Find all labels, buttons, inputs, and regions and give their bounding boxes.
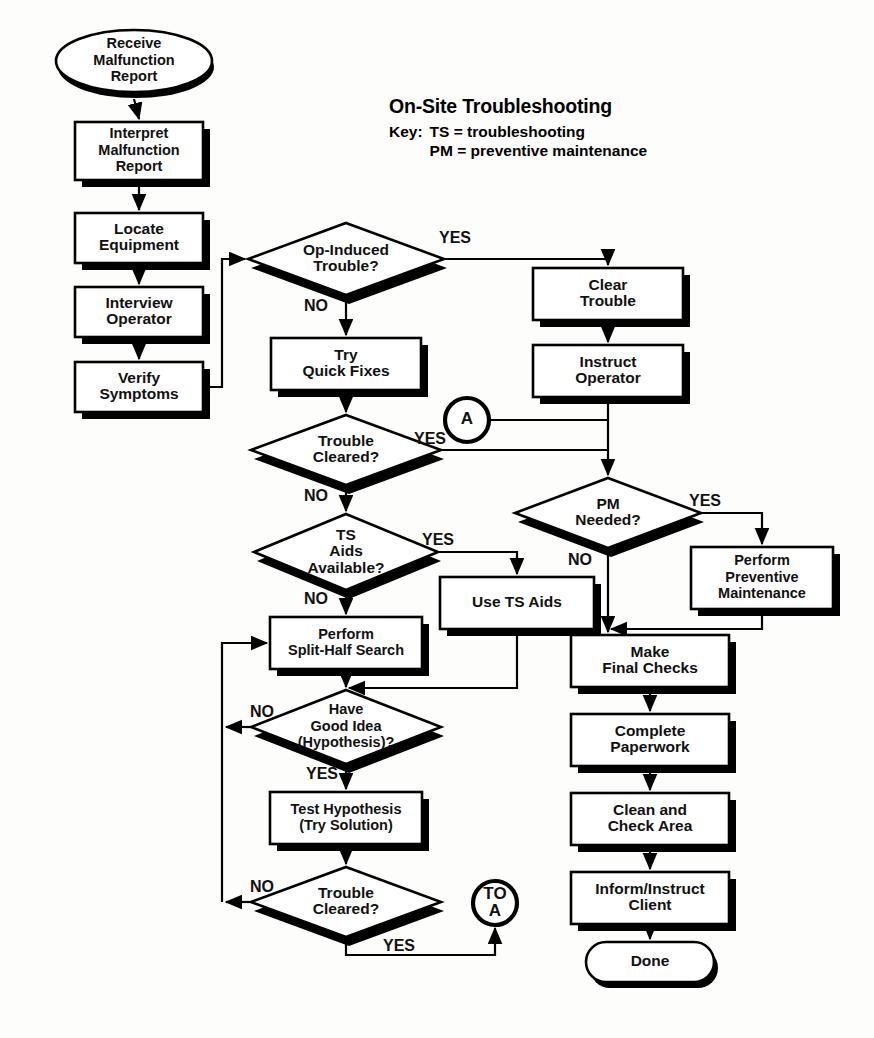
node-label: TS <box>336 526 356 543</box>
node-interview[interactable]: InterviewOperator <box>75 287 210 344</box>
node-label: Trouble <box>318 432 374 449</box>
node-label: Aids <box>329 542 363 559</box>
edge-loopback-splithalf <box>222 643 267 902</box>
page-title: On-Site Troubleshooting <box>389 95 647 118</box>
node-label: Clear <box>589 276 628 293</box>
node-start[interactable]: ReceiveMalfunctionReport <box>56 30 214 98</box>
node-label: Make <box>631 643 670 660</box>
edge-label: NO <box>250 703 274 720</box>
node-label: Done <box>631 952 670 969</box>
node-label: Complete <box>615 722 686 739</box>
node-label: Report <box>111 68 158 84</box>
node-cleared1[interactable]: TroubleCleared? <box>251 415 444 494</box>
node-label: Instruct <box>580 353 637 370</box>
node-label: Receive <box>107 35 162 51</box>
node-label: Available? <box>308 559 385 576</box>
node-label: Interpret <box>110 125 169 141</box>
node-cleared2[interactable]: TroubleCleared? <box>251 867 444 946</box>
node-locate[interactable]: LocateEquipment <box>75 213 210 270</box>
edge-performpm-finalchecks <box>611 616 762 629</box>
edge-label: YES <box>689 492 721 509</box>
node-label: Malfunction <box>93 52 174 68</box>
node-label: Perform <box>318 626 374 642</box>
edge-start-interpret <box>134 99 139 119</box>
node-label: Clean and <box>613 801 687 818</box>
node-label: A <box>489 901 501 920</box>
node-tsaidsq[interactable]: TSAidsAvailable? <box>254 514 441 599</box>
node-opinduced[interactable]: Op-InducedTrouble? <box>248 223 447 304</box>
node-label: (Hypothesis)? <box>298 734 395 750</box>
node-label: Trouble <box>580 292 636 309</box>
edge-label: NO <box>304 590 328 607</box>
node-label: Malfunction <box>98 142 179 158</box>
node-cleanarea[interactable]: Clean andCheck Area <box>571 793 736 852</box>
node-label: Preventive <box>725 569 798 585</box>
node-label: Needed? <box>575 511 640 528</box>
node-connTOA[interactable]: TOA <box>473 881 517 925</box>
node-label: Operator <box>575 369 640 386</box>
node-done[interactable]: Done <box>586 942 718 988</box>
flowchart-canvas: ReceiveMalfunctionReportInterpretMalfunc… <box>0 0 874 1038</box>
node-label: Equipment <box>99 236 179 253</box>
node-label: Interview <box>105 294 173 311</box>
key-line-ts: TS = troubleshooting <box>430 123 648 141</box>
node-verify[interactable]: VerifySymptoms <box>75 362 210 419</box>
edge-label: YES <box>414 430 446 447</box>
node-informclient[interactable]: Inform/InstructClient <box>571 872 736 931</box>
node-label: Symptoms <box>99 385 178 402</box>
node-label: Cleared? <box>313 448 379 465</box>
node-label: Good Idea <box>311 718 383 734</box>
node-quickfixes[interactable]: TryQuick Fixes <box>271 338 428 397</box>
edge-tsaids-usetsaids <box>438 552 517 574</box>
node-label: Locate <box>114 220 164 237</box>
key-label: Key: <box>389 123 423 160</box>
node-cleartrb[interactable]: ClearTrouble <box>533 268 690 327</box>
node-label: Test Hypothesis <box>291 801 402 817</box>
node-connA[interactable]: A <box>445 398 489 442</box>
edge-label: NO <box>304 297 328 314</box>
node-interpret[interactable]: InterpretMalfunctionReport <box>75 122 210 187</box>
node-label: Maintenance <box>718 585 806 601</box>
node-testhyp[interactable]: Test Hypothesis(Try Solution) <box>270 792 429 851</box>
node-finalchecks[interactable]: MakeFinal Checks <box>571 635 736 694</box>
node-label: A <box>461 409 473 428</box>
node-label: Perform <box>734 552 790 568</box>
edge-label: NO <box>568 551 592 568</box>
node-layer: ReceiveMalfunctionReportInterpretMalfunc… <box>56 30 840 988</box>
node-pmneeded[interactable]: PMNeeded? <box>515 478 704 557</box>
node-label: Cleared? <box>313 900 379 917</box>
node-label: Op-Induced <box>303 241 389 258</box>
node-label: Have <box>329 701 364 717</box>
node-instructop[interactable]: InstructOperator <box>533 345 690 404</box>
node-label: Use TS Aids <box>472 593 562 610</box>
edge-label: YES <box>439 229 471 246</box>
node-usetsaids[interactable]: Use TS Aids <box>440 577 601 636</box>
node-splithalf[interactable]: PerformSplit-Half Search <box>270 617 429 676</box>
edge-label: YES <box>306 765 338 782</box>
key-line-pm: PM = preventive maintenance <box>430 142 648 160</box>
node-label: (Try Solution) <box>299 817 393 833</box>
node-goodidea[interactable]: HaveGood Idea(Hypothesis)? <box>251 690 444 773</box>
node-label: Trouble <box>318 884 374 901</box>
node-label: Try <box>334 346 358 363</box>
edge-label: YES <box>383 937 415 954</box>
node-label: Final Checks <box>602 659 698 676</box>
edge-label: YES <box>422 531 454 548</box>
node-label: PM <box>596 495 619 512</box>
node-label: Report <box>116 158 163 174</box>
node-label: Client <box>628 896 671 913</box>
edge-label: NO <box>250 878 274 895</box>
key-block: Key: TS = troubleshooting PM = preventiv… <box>389 123 647 160</box>
node-label: Quick Fixes <box>302 362 389 379</box>
node-label: Verify <box>118 369 161 386</box>
key-lines: TS = troubleshooting PM = preventive mai… <box>430 123 648 160</box>
node-performpm[interactable]: PerformPreventiveMaintenance <box>691 547 840 616</box>
node-label: Trouble? <box>313 257 378 274</box>
node-label: Inform/Instruct <box>595 880 704 897</box>
node-label: Paperwork <box>610 738 690 755</box>
node-label: Operator <box>106 310 171 327</box>
edge-opinduced-cleartrouble <box>444 259 608 265</box>
node-label: Split-Half Search <box>288 642 404 658</box>
node-label: Check Area <box>608 817 693 834</box>
node-paperwork[interactable]: CompletePaperwork <box>571 714 736 773</box>
